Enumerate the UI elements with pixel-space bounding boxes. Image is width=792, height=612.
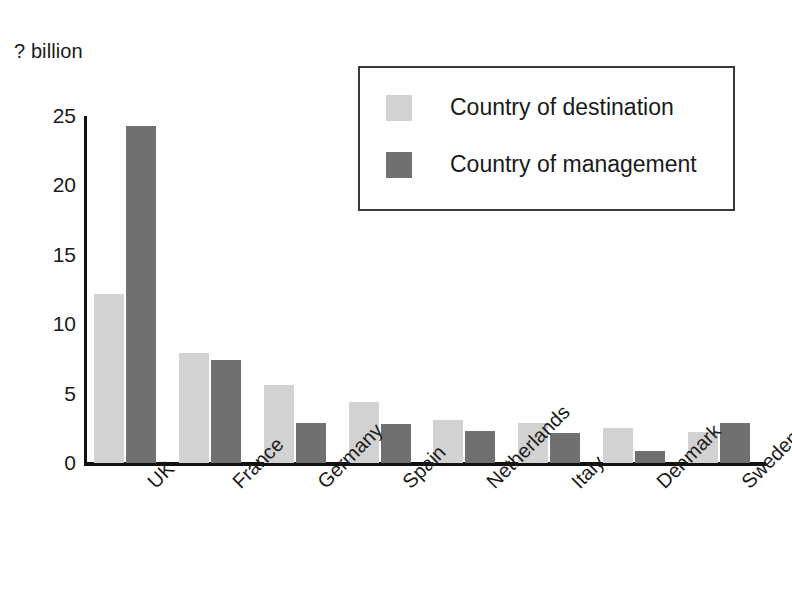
x-tick-label: Sweden (737, 477, 753, 493)
y-tick-20: 20 (0, 173, 76, 197)
bar-destination (349, 402, 379, 463)
bar-destination (264, 385, 294, 463)
bar-group (94, 116, 156, 463)
bar-management (126, 126, 156, 463)
legend-label-destination: Country of destination (450, 94, 674, 121)
bar-group (264, 116, 326, 463)
bar-group (179, 116, 241, 463)
x-tick-label: France (228, 477, 244, 493)
bar-destination (603, 428, 633, 463)
x-tick-label: UK (143, 477, 159, 493)
x-tick-label: Spain (398, 477, 414, 493)
bar-management (211, 360, 241, 463)
legend-swatch-destination (386, 95, 412, 121)
bar-destination (94, 294, 124, 463)
legend-item-management: Country of management (386, 151, 697, 178)
x-tick-label: Germany (313, 477, 329, 493)
legend-swatch-management (386, 152, 412, 178)
bar-destination (179, 353, 209, 463)
bar-destination (433, 420, 463, 463)
y-tick-0: 0 (0, 451, 76, 475)
bar-management (381, 424, 411, 463)
bar-management (720, 423, 750, 463)
y-tick-10: 10 (0, 312, 76, 336)
bar-management (635, 451, 665, 463)
y-tick-5: 5 (0, 382, 76, 406)
legend: Country of destination Country of manage… (358, 66, 735, 211)
x-tick-label: Italy (567, 477, 583, 493)
bar-management (296, 423, 326, 463)
x-tick-label: Netherlands (482, 477, 498, 493)
bar-destination (688, 432, 718, 463)
legend-item-destination: Country of destination (386, 94, 674, 121)
y-tick-15: 15 (0, 243, 76, 267)
y-tick-25: 25 (0, 104, 76, 128)
bar-management (465, 431, 495, 463)
legend-label-management: Country of management (450, 151, 697, 178)
y-axis-tick-labels: 0510152025 (0, 0, 76, 612)
bar-destination (518, 423, 548, 463)
bar-chart: ? billion 0510152025 UKFranceGermanySpai… (0, 0, 792, 612)
bar-management (550, 433, 580, 463)
x-tick-label: Denmark (652, 477, 668, 493)
